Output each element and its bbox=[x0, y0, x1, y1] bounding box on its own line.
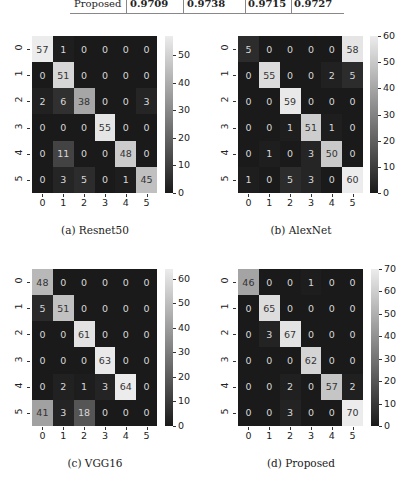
matrix-cell: 0 bbox=[74, 347, 95, 373]
matrix-cell: 0 bbox=[280, 62, 301, 88]
matrix-cell: 0 bbox=[74, 141, 95, 167]
matrix-cell: 57 bbox=[32, 36, 53, 62]
colorbar-tick-label: 60 bbox=[378, 31, 395, 41]
matrix-cell: 2 bbox=[32, 88, 53, 114]
y-tick-label: 5 bbox=[219, 405, 230, 417]
matrix-cell: 0 bbox=[238, 141, 259, 167]
matrix-cell: 62 bbox=[301, 347, 322, 373]
matrix-cell: 0 bbox=[301, 88, 322, 114]
matrix-cell: 51 bbox=[301, 114, 322, 140]
column-divider bbox=[183, 0, 184, 13]
matrix-cell: 0 bbox=[53, 114, 74, 140]
matrix-cell: 0 bbox=[259, 167, 280, 193]
metric-value-4: 0.9727 bbox=[294, 0, 332, 13]
matrix-cell: 0 bbox=[238, 347, 259, 373]
y-tick-label: 2 bbox=[219, 94, 230, 106]
matrix-cell: 0 bbox=[280, 269, 301, 295]
x-tick-label: 2 bbox=[284, 430, 296, 441]
x-tick-label: 3 bbox=[305, 197, 317, 208]
y-tick-label: 1 bbox=[219, 68, 230, 80]
y-tick-mark bbox=[233, 154, 236, 155]
y-tick-mark bbox=[27, 308, 30, 309]
x-tick-label: 4 bbox=[120, 197, 132, 208]
y-tick-mark bbox=[27, 154, 30, 155]
y-tick-label: 1 bbox=[219, 301, 230, 313]
y-tick-label: 3 bbox=[13, 120, 24, 132]
matrix-cell: 51 bbox=[53, 295, 74, 321]
matrix-cell: 5 bbox=[32, 295, 53, 321]
matrix-cell: 0 bbox=[238, 88, 259, 114]
matrix-cell: 55 bbox=[95, 114, 116, 140]
matrix-cell: 0 bbox=[32, 141, 53, 167]
matrix-cell: 0 bbox=[136, 295, 157, 321]
matrix-cell: 0 bbox=[136, 62, 157, 88]
y-tick-mark bbox=[27, 282, 30, 283]
matrix-cell: 0 bbox=[115, 347, 136, 373]
y-tick-label: 1 bbox=[13, 68, 24, 80]
matrix-cell: 0 bbox=[259, 400, 280, 426]
colorbar-tick-label: 40 bbox=[173, 78, 190, 88]
matrix-cell: 0 bbox=[238, 295, 259, 321]
colorbar-tick-label: 60 bbox=[173, 274, 190, 284]
x-tick-label: 2 bbox=[78, 197, 90, 208]
matrix-cell: 18 bbox=[74, 400, 95, 426]
colorbar-tick-label: 50 bbox=[379, 309, 396, 319]
colorbar-tick-label: 0 bbox=[378, 188, 389, 198]
matrix-cell: 6 bbox=[53, 88, 74, 114]
matrix-cell: 0 bbox=[321, 295, 342, 321]
matrix-cell: 0 bbox=[321, 321, 342, 347]
matrix-cell: 3 bbox=[95, 374, 116, 400]
colorbar-tick-label: 10 bbox=[173, 160, 190, 170]
matrix-cell: 0 bbox=[95, 88, 116, 114]
x-tick-label: 5 bbox=[347, 430, 359, 441]
colorbar bbox=[371, 269, 379, 426]
matrix-cell: 0 bbox=[136, 321, 157, 347]
x-tick-label: 0 bbox=[242, 430, 254, 441]
matrix-cell: 0 bbox=[301, 321, 322, 347]
matrix-cell: 0 bbox=[74, 36, 95, 62]
matrix-cell: 0 bbox=[32, 321, 53, 347]
matrix-cell: 3 bbox=[259, 321, 280, 347]
y-tick-mark bbox=[27, 128, 30, 129]
matrix-cell: 0 bbox=[53, 269, 74, 295]
heatmap-grid: 5000058055002500590000015110010350010530… bbox=[238, 36, 363, 193]
y-tick-label: 0 bbox=[13, 42, 24, 54]
matrix-cell: 0 bbox=[74, 269, 95, 295]
matrix-cell: 0 bbox=[321, 88, 342, 114]
matrix-cell: 64 bbox=[115, 374, 136, 400]
matrix-cell: 11 bbox=[53, 141, 74, 167]
matrix-cell: 0 bbox=[342, 269, 363, 295]
matrix-cell: 0 bbox=[321, 167, 342, 193]
x-tick-label: 1 bbox=[263, 430, 275, 441]
y-tick-mark bbox=[233, 387, 236, 388]
heatmap-grid: 4800000551000000610000006300021364041318… bbox=[32, 269, 157, 426]
x-tick-label: 0 bbox=[36, 430, 48, 441]
matrix-cell: 0 bbox=[342, 295, 363, 321]
matrix-cell: 0 bbox=[115, 114, 136, 140]
matrix-cell: 0 bbox=[115, 88, 136, 114]
y-tick-mark bbox=[233, 75, 236, 76]
matrix-cell: 5 bbox=[342, 62, 363, 88]
matrix-cell: 0 bbox=[95, 295, 116, 321]
y-tick-mark bbox=[233, 361, 236, 362]
matrix-cell: 51 bbox=[53, 62, 74, 88]
y-tick-label: 2 bbox=[219, 327, 230, 339]
matrix-cell: 0 bbox=[115, 36, 136, 62]
y-tick-label: 4 bbox=[13, 146, 24, 158]
y-tick-label: 3 bbox=[13, 353, 24, 365]
colorbar-tick-label: 30 bbox=[379, 354, 396, 364]
matrix-cell: 0 bbox=[280, 347, 301, 373]
colorbar-tick-label: 20 bbox=[173, 133, 190, 143]
colorbar-tick-label: 30 bbox=[173, 105, 190, 115]
y-tick-label: 3 bbox=[219, 120, 230, 132]
y-tick-label: 5 bbox=[13, 405, 24, 417]
colorbar bbox=[370, 36, 378, 193]
colorbar-tick-label: 30 bbox=[173, 347, 190, 357]
matrix-cell: 0 bbox=[301, 400, 322, 426]
matrix-cell: 5 bbox=[238, 36, 259, 62]
matrix-cell: 0 bbox=[342, 347, 363, 373]
matrix-cell: 55 bbox=[259, 62, 280, 88]
row-label: Proposed bbox=[74, 0, 121, 13]
x-tick-label: 0 bbox=[242, 197, 254, 208]
metric-value-2: 0.9738 bbox=[187, 0, 225, 13]
